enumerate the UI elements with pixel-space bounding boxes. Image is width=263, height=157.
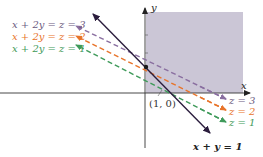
vertex-point: [144, 65, 148, 69]
right-label-z2: z = 2: [228, 106, 255, 117]
y-axis-label: y: [150, 2, 157, 13]
level-line-z1-right-arrow: [200, 109, 226, 122]
level-line-z2-right-arrow: [200, 97, 226, 110]
left-label-z1: x + 2y = z = 1: [12, 43, 86, 54]
diagram-canvas: y x x + 2y = z = 3 x + 2y = z = 2 x + 2y…: [0, 0, 263, 157]
vertex-label: (1, 0): [149, 98, 176, 109]
constraint-line: [93, 14, 152, 74]
constraint-line-label: x + y = 1: [192, 141, 242, 152]
left-label-z3: x + 2y = z = 3: [12, 19, 86, 30]
shaded-region: [146, 12, 243, 93]
left-label-z2: x + 2y = z = 2: [12, 31, 86, 42]
right-label-z1: z = 1: [228, 117, 255, 128]
x-axis-label: x: [241, 80, 247, 91]
right-label-z3: z = 3: [228, 95, 255, 106]
